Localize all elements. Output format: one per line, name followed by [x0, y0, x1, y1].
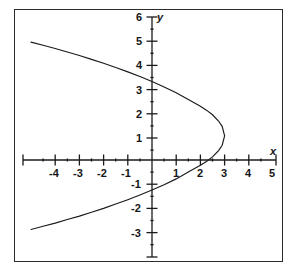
y-tick-label-5: 5 [136, 36, 142, 47]
y-tick-label--3: -3 [131, 228, 141, 239]
x-tick-label-2: 2 [197, 168, 203, 179]
x-tick-label--4: -4 [49, 168, 59, 179]
x-tick-label--3: -3 [73, 168, 83, 179]
y-tick-label-3: 3 [136, 85, 142, 96]
y-tick-label-6: 6 [136, 12, 142, 23]
x-axis-group [23, 155, 276, 166]
graph-figure: -4 -3 -2 -1 1 2 3 4 5 6 5 4 3 2 1 -1 -2 … [0, 0, 296, 272]
y-tick-label-1: 1 [136, 133, 142, 144]
y-tick-label-2: 2 [136, 109, 142, 120]
x-tick-label-3: 3 [221, 168, 227, 179]
x-tick-label--1: -1 [121, 168, 131, 179]
x-tick-label-5: 5 [269, 168, 275, 179]
y-tick-label--1: -1 [131, 179, 141, 190]
parabola-curve [31, 42, 225, 229]
y-axis-group [147, 17, 158, 257]
y-tick-label--2: -2 [131, 203, 141, 214]
plot-canvas [0, 0, 296, 272]
y-axis-label: y [157, 12, 163, 23]
y-tick-label-4: 4 [136, 60, 142, 71]
parabola-lower-branch [31, 136, 225, 230]
parabola-upper-branch [31, 42, 225, 136]
x-tick-label-1: 1 [173, 168, 179, 179]
x-tick-label--2: -2 [97, 168, 107, 179]
x-tick-label-4: 4 [245, 168, 251, 179]
x-axis-label: x [270, 146, 276, 157]
